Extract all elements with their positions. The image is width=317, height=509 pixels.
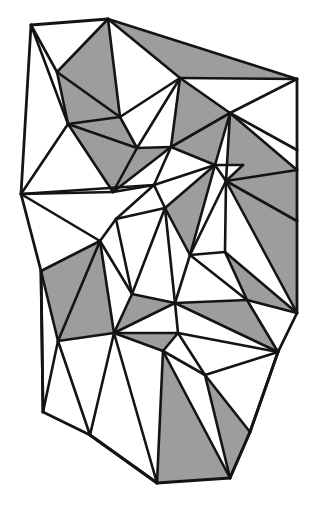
mesh-interior-edge [137,147,171,148]
triangulated-polygon-mesh [0,0,317,509]
mesh-outline-edge [41,271,43,412]
mesh-interior-edge [180,78,297,79]
mesh-interior-edge [225,181,226,252]
figure-root [0,0,317,509]
